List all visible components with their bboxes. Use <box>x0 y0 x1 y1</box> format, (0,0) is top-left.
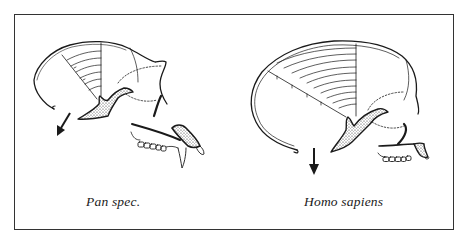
pan-premaxilla-stippled <box>172 125 200 148</box>
skull-comparison-illustration <box>0 0 468 244</box>
pan-direction-arrow-icon <box>57 113 70 136</box>
homo-direction-arrow-icon <box>309 148 319 175</box>
homo-species-label: Homo sapiens <box>304 194 383 210</box>
homo-skull <box>251 41 419 153</box>
pan-stippled-bone <box>78 88 133 119</box>
pan-species-label: Pan spec. <box>86 194 140 210</box>
homo-premaxilla-stippled <box>414 143 428 157</box>
